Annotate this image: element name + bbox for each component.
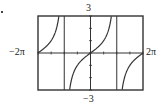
graph-plot [0, 0, 168, 109]
tan-curve-branch [122, 53, 143, 90]
tan-curve-branch [38, 16, 59, 53]
